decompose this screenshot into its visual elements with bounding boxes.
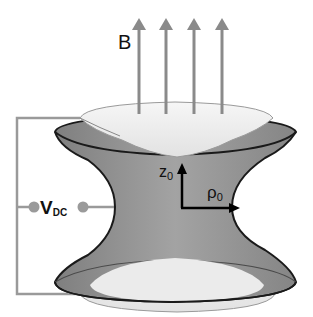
radial-distance-label: ρ0 (207, 183, 223, 203)
magnetic-field-arrows (132, 18, 229, 114)
terminal-left-icon (29, 202, 40, 213)
voltage-label: VDC (40, 197, 67, 219)
terminal-right-icon (78, 202, 89, 213)
axial-distance-label: z0 (159, 163, 173, 182)
penning-trap-diagram: B VDC z0 ρ0 (0, 0, 313, 317)
magnetic-field-label: B (118, 31, 131, 54)
